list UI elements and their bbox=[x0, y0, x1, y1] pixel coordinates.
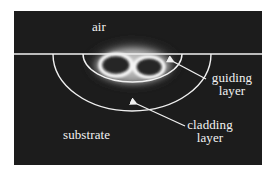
guiding-layer-label: guiding layer bbox=[206, 71, 258, 97]
waveguide-mode-figure: air guiding layer cladding layer substra… bbox=[0, 0, 273, 173]
air-label: air bbox=[92, 20, 106, 33]
cladding-layer-label: cladding layer bbox=[184, 118, 236, 144]
cladding-label-line2: layer bbox=[184, 131, 236, 144]
guiding-label-line2: layer bbox=[206, 84, 258, 97]
substrate-label: substrate bbox=[63, 128, 110, 141]
